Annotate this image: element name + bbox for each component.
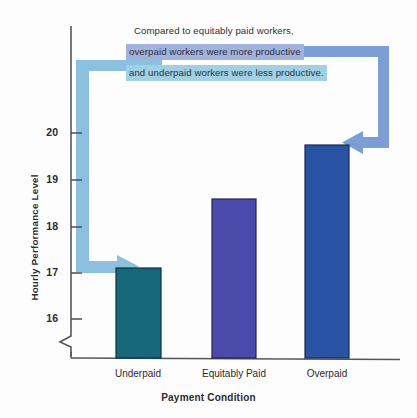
y-axis <box>60 26 71 358</box>
chart-canvas <box>0 0 417 418</box>
x-axis-title: Payment Condition <box>0 392 417 403</box>
y-tick-label-20: 20 <box>30 126 58 138</box>
bar-chart-figure: 20 19 18 17 16 Underpaid Equitably Paid … <box>0 0 417 418</box>
bar-underpaid <box>116 268 161 358</box>
bar-overpaid <box>305 145 349 358</box>
callout-arrow-overpaid <box>300 46 389 154</box>
annotation-line-3: and underpaid workers were less producti… <box>126 65 327 81</box>
x-tick-label-equitably-paid: Equitably Paid <box>184 368 284 379</box>
callout-arrow-underpaid <box>76 60 162 278</box>
annotation-line-2: overpaid workers were more productive <box>126 44 304 60</box>
x-tick-label-overpaid: Overpaid <box>287 368 367 379</box>
y-axis-title: Hourly Performance Level <box>29 158 40 318</box>
x-tick-label-underpaid: Underpaid <box>98 368 178 379</box>
bar-equitably-paid <box>212 199 256 358</box>
annotation-line-1: Compared to equitably paid workers, <box>134 24 294 37</box>
